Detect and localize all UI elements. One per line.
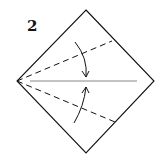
origami-step-diagram: 2 [0, 0, 165, 161]
step-number: 2 [27, 17, 37, 35]
